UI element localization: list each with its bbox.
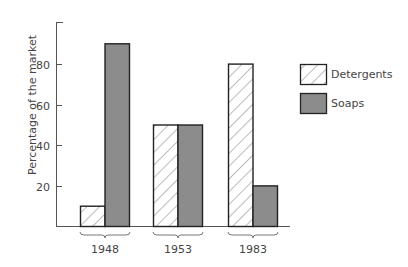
legend-label-soaps: Soaps [331, 97, 364, 110]
bar-detergents-1953 [154, 125, 179, 227]
legend-item-detergents: Detergents [301, 65, 393, 85]
bar-soaps-1948 [105, 44, 130, 227]
legend-item-soaps: Soaps [301, 94, 365, 114]
x-categories: 194819531983 [80, 232, 278, 256]
x-category-label: 1983 [239, 243, 267, 256]
category-brace [153, 232, 203, 238]
legend-label-detergents: Detergents [331, 68, 393, 81]
x-category-label: 1953 [164, 243, 192, 256]
bar-chart: Percentage of the market 20406080 194819… [0, 0, 408, 267]
y-ticks: 20406080 [36, 59, 62, 194]
bar-detergents-1983 [229, 64, 254, 226]
legend: Detergents Soaps [301, 65, 393, 114]
category-brace [80, 232, 130, 238]
bar-detergents-1948 [81, 206, 106, 226]
bar-soaps-1983 [253, 186, 278, 227]
y-tick-label: 80 [36, 59, 50, 72]
y-tick-label: 20 [36, 181, 50, 194]
bars [81, 44, 278, 227]
legend-swatch-detergents [301, 65, 327, 85]
legend-swatch-soaps [301, 94, 327, 114]
x-category-label: 1948 [91, 243, 119, 256]
category-brace [228, 232, 278, 238]
y-tick-label: 60 [36, 100, 50, 113]
bar-soaps-1953 [178, 125, 203, 227]
y-tick-label: 40 [36, 140, 50, 153]
